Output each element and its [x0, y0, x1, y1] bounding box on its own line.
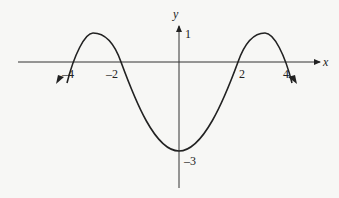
tick-label-yneg3: –3: [183, 154, 196, 168]
tick-label-y1: 1: [185, 27, 191, 41]
tick-label-2: 2: [239, 67, 245, 81]
tick-label-4: 4: [283, 67, 289, 81]
tick-label-neg4: –4: [61, 67, 74, 81]
x-axis-label: x: [322, 55, 329, 69]
function-graph: y x –4 –2 2 4 1 –3: [0, 0, 339, 198]
tick-label-neg2: –2: [105, 67, 118, 81]
y-axis-label: y: [172, 7, 179, 21]
